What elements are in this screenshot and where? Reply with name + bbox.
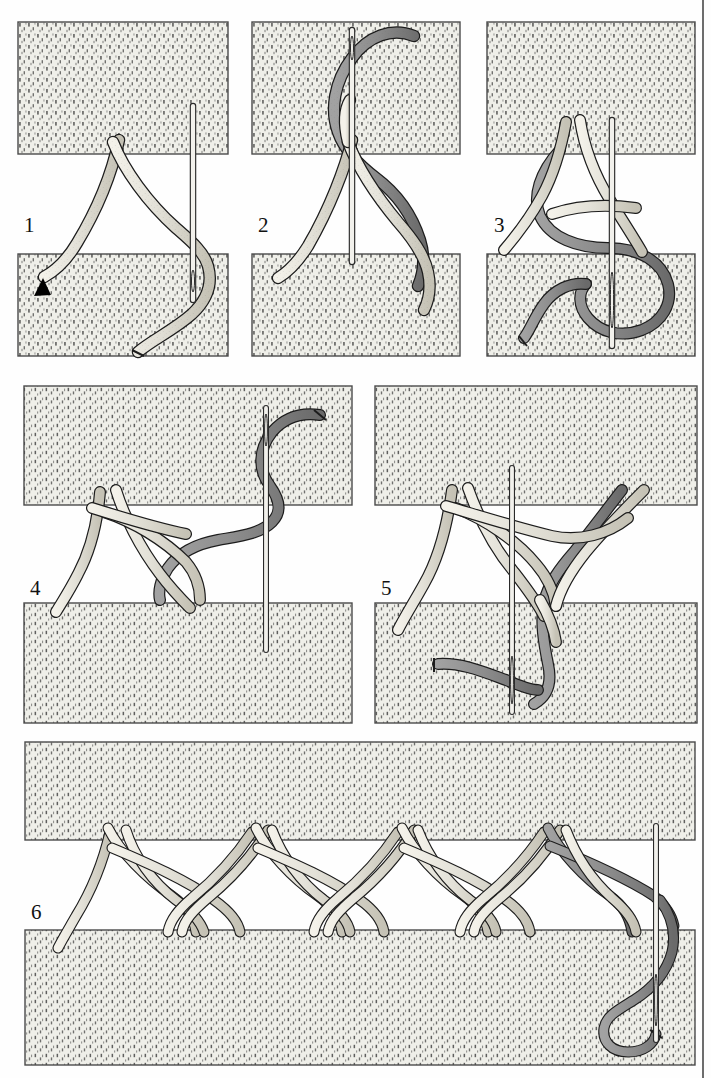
step-4-panel: [24, 386, 352, 723]
step-2-number: 2: [258, 215, 269, 236]
step-2-panel: [252, 22, 460, 356]
diagram-page: 1 2 3 4 5 6: [0, 0, 711, 1078]
step-3-number: 3: [494, 215, 505, 236]
step-3-needle: [610, 120, 613, 346]
step-6-panel: [25, 742, 695, 1065]
step-6-unit-1: [108, 828, 268, 932]
step-1-fabric-top: [18, 22, 228, 154]
step-6-unit-3: [402, 828, 560, 932]
step-6-number: 6: [31, 902, 42, 923]
page-right-rule: [702, 0, 704, 1078]
step-5-panel: [375, 386, 697, 723]
step-5-needle: [511, 468, 514, 712]
step-3-panel: [487, 22, 695, 356]
step-4-fabric-bottom: [24, 603, 352, 723]
step-1-number: 1: [24, 215, 35, 236]
step-1-panel: [18, 22, 228, 356]
step-4-number: 4: [30, 578, 41, 599]
step-4-thread-light: [56, 490, 200, 612]
step-6-needle: [655, 826, 658, 1040]
stitch-diagram-canvas: [0, 0, 711, 1078]
step-6-fabric-bottom: [25, 930, 695, 1065]
step-4-fabric-top: [24, 386, 352, 505]
step-1-needle: [192, 106, 195, 300]
step-2-fabric-top: [252, 22, 460, 154]
step-5-number: 5: [381, 578, 392, 599]
step-4-needle: [265, 408, 268, 650]
step-6-unit-2: [256, 828, 414, 932]
step-2-needle: [351, 30, 354, 262]
step-3-fabric-top: [487, 22, 695, 154]
